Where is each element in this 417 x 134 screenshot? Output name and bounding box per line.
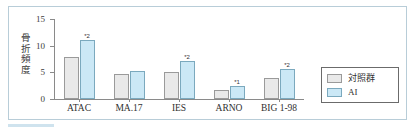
bar-group <box>104 19 154 99</box>
y-tick-label: 0 <box>41 95 46 104</box>
accent-underline <box>8 124 54 127</box>
chart-figure: 骨折頻度 15 10 5 0 *2*2*1*2 ATACMA.17IESARNO… <box>8 6 407 120</box>
bar-control <box>114 74 129 99</box>
bar-ai: *2 <box>280 69 295 99</box>
legend-label-control: 対照群 <box>348 74 375 83</box>
bar-ai <box>130 71 145 99</box>
bar-control <box>214 90 229 99</box>
y-tick-label: 10 <box>36 41 45 50</box>
significance-marker: *2 <box>284 62 290 68</box>
legend-swatch-ai-icon <box>327 88 342 97</box>
bar-control <box>264 78 279 99</box>
y-tick-label: 5 <box>41 68 46 77</box>
x-tick-label: IES <box>154 101 204 117</box>
y-axis-title: 骨折頻度 <box>19 33 32 75</box>
bar-group: *2 <box>154 19 204 99</box>
x-axis-labels: ATACMA.17IESARNOBIG 1-98 <box>54 101 304 117</box>
legend-item-ai: AI <box>327 85 393 99</box>
bar-group: *2 <box>254 19 304 99</box>
x-tick-label: MA.17 <box>104 101 154 117</box>
chart-legend: 対照群 AI <box>321 67 399 103</box>
bar-ai: *2 <box>80 40 95 99</box>
plot-area: 15 10 5 0 *2*2*1*2 ATACMA.17IESARNOBIG 1… <box>54 19 304 105</box>
bar-groups: *2*2*1*2 <box>54 19 304 99</box>
significance-marker: *2 <box>184 54 190 60</box>
x-tick-label: BIG 1-98 <box>254 101 304 117</box>
y-tick-label: 15 <box>36 15 45 24</box>
bar-control <box>64 57 79 99</box>
x-tick-label: ARNO <box>204 101 254 117</box>
significance-marker: *1 <box>234 79 240 85</box>
bar-ai: *1 <box>230 86 245 99</box>
legend-swatch-control-icon <box>327 74 342 83</box>
y-tick-mark: 0 <box>50 99 54 100</box>
bar-control <box>164 72 179 99</box>
legend-item-control: 対照群 <box>327 71 393 85</box>
bar-group: *1 <box>204 19 254 99</box>
bar-group: *2 <box>54 19 104 99</box>
legend-label-ai: AI <box>348 88 358 97</box>
significance-marker: *2 <box>84 33 90 39</box>
bar-ai: *2 <box>180 61 195 99</box>
x-tick-label: ATAC <box>54 101 104 117</box>
